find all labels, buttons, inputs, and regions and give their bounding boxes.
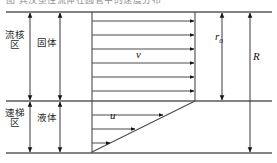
label-plug-velocity: v <box>136 49 141 60</box>
shear-profile-line <box>92 101 195 152</box>
diagram-canvas <box>0 0 277 163</box>
label-shear-velocity: u <box>110 110 116 121</box>
profile-axes <box>92 12 195 153</box>
label-solid-state: 固体 <box>37 38 57 48</box>
label-core-zone: 流核区 <box>4 30 25 49</box>
label-liquid-state: 液体 <box>37 113 57 123</box>
label-pipe-radius: R <box>253 51 260 62</box>
radius-dimension-arrows <box>222 13 250 152</box>
velocity-profile-diagram: 图 宾汉塑性流体在圆管中的速度分布 <box>0 0 277 163</box>
boundary-lines <box>6 12 272 153</box>
plug-velocity-arrows <box>92 21 194 91</box>
plug-radius-subscript: 0 <box>219 37 223 45</box>
label-plug-radius: r0 <box>215 31 223 45</box>
label-gradient-zone: 速梯区 <box>4 108 25 127</box>
shear-velocity-arrows <box>92 115 163 143</box>
